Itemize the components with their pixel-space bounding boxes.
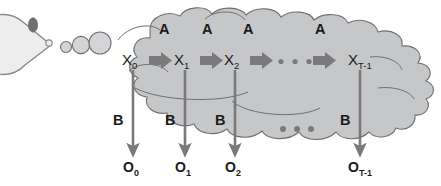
- pacman-mouth-dot: [46, 40, 52, 46]
- observation-ellipsis-dot: [294, 126, 300, 132]
- state-x2-base: X: [224, 51, 234, 68]
- obs-ot-sub: T-1: [359, 168, 372, 178]
- obs-o0: O0: [123, 160, 139, 178]
- obs-o2-sub: 2: [236, 168, 241, 178]
- obs-o1-sub: 1: [186, 168, 191, 178]
- state-x2-sub: 2: [234, 60, 239, 71]
- thought-bubble-trail: [61, 32, 112, 54]
- emission-label-b1: B: [165, 113, 175, 128]
- thought-bubble-large: [89, 32, 111, 54]
- state-x1-base: X: [174, 51, 184, 68]
- obs-o2-base: O: [225, 159, 236, 175]
- pacman-eye: [28, 18, 37, 32]
- transition-label-a1: A: [202, 22, 212, 37]
- emission-label-b3: B: [340, 113, 350, 128]
- state-xt: XT-1: [348, 52, 372, 71]
- obs-o1: O1: [175, 160, 191, 178]
- state-xt-base: X: [348, 51, 358, 68]
- obs-ot: OT-1: [348, 160, 372, 178]
- obs-o1-base: O: [175, 159, 186, 175]
- transition-label-a0: A: [159, 22, 169, 37]
- thought-bubble-small: [61, 42, 72, 53]
- state-ellipsis-dot: [278, 59, 283, 64]
- state-x0: X0: [122, 52, 137, 71]
- transition-label-a3: A: [315, 22, 325, 37]
- obs-o0-sub: 0: [134, 168, 139, 178]
- emission-label-b2: B: [215, 113, 225, 128]
- observation-ellipsis-dot: [308, 126, 314, 132]
- obs-o0-base: O: [123, 159, 134, 175]
- state-ellipsis-dot: [306, 59, 311, 64]
- emission-label-b0: B: [113, 113, 123, 128]
- state-x0-sub: 0: [132, 60, 137, 71]
- observation-ellipsis-dot: [280, 126, 286, 132]
- state-x1: X1: [174, 52, 189, 71]
- state-x2: X2: [224, 52, 239, 71]
- state-x0-base: X: [122, 51, 132, 68]
- state-ellipsis-dot: [292, 59, 297, 64]
- state-xt-sub: T-1: [358, 60, 372, 71]
- diagram-canvas: A A A A X0 X1 X2 XT-1 B B B B O0 O1 O2 O…: [0, 0, 441, 186]
- thought-bubble-medium: [72, 36, 89, 53]
- pacman-body: [0, 14, 51, 74]
- pacman-thinker: [0, 14, 52, 74]
- state-x1-sub: 1: [184, 60, 189, 71]
- obs-o2: O2: [225, 160, 241, 178]
- obs-ot-base: O: [348, 159, 359, 175]
- transition-label-a2: A: [243, 22, 253, 37]
- observation-ellipsis: [280, 126, 314, 132]
- hmm-diagram-svg: [0, 0, 441, 186]
